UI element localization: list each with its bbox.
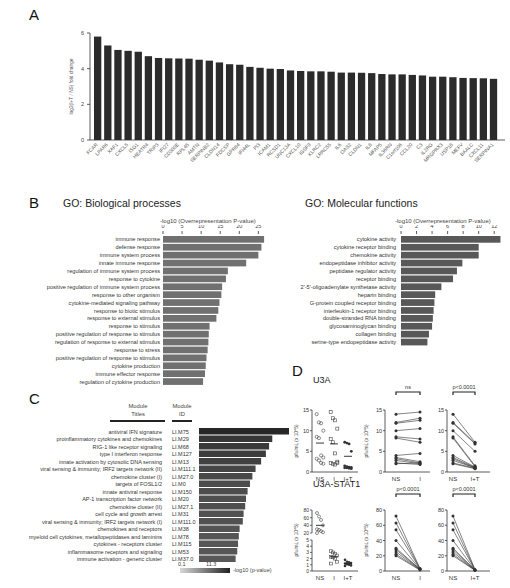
- bar: [185, 59, 192, 140]
- bar: [287, 70, 294, 140]
- svg-text:IFI44L: IFI44L: [237, 141, 251, 155]
- svg-text:10: 10: [438, 428, 444, 434]
- bar: [163, 283, 222, 290]
- svg-text:15: 15: [303, 407, 309, 413]
- svg-text:4: 4: [81, 66, 84, 72]
- svg-text:proinflammatory cytokines and: proinflammatory cytokines and chemokines: [57, 436, 163, 442]
- bar: [104, 45, 111, 140]
- svg-text:LI.M111.1: LI.M111.1: [172, 466, 196, 472]
- svg-text:I+T: I+T: [471, 575, 480, 581]
- svg-text:pfu/mL (x 10^5): pfu/mL (x 10^5): [364, 523, 369, 556]
- svg-text:response to stress: response to stress: [114, 347, 160, 353]
- svg-text:LI.M29: LI.M29: [172, 436, 189, 442]
- svg-text:response to external stimulus: response to external stimulus: [87, 315, 160, 321]
- svg-text:LI.M38: LI.M38: [172, 526, 189, 532]
- bar: [401, 307, 434, 314]
- bar: [163, 378, 203, 385]
- bar: [401, 331, 429, 338]
- svg-text:chemokines and receptors: chemokines and receptors: [97, 526, 162, 532]
- module-bar: [199, 436, 272, 443]
- svg-text:20: 20: [438, 553, 444, 559]
- svg-text:innate activation by cytosolic: innate activation by cytosolic DNA sensi…: [59, 459, 162, 465]
- svg-text:LI.M68: LI.M68: [172, 444, 189, 450]
- bar: [163, 370, 205, 377]
- panel-b-letter: B: [29, 194, 39, 211]
- svg-text:glycosaminoglycan binding: glycosaminoglycan binding: [329, 323, 396, 329]
- go-bio-axis-label: -log10 (Overrepresentation P-value): [160, 218, 256, 224]
- svg-text:5: 5: [306, 448, 309, 454]
- bar: [163, 299, 219, 306]
- bar: [163, 323, 210, 330]
- svg-text:interleukin-1 receptor binding: interleukin-1 receptor binding: [324, 308, 396, 314]
- svg-text:pfu/mL (x 10^5): pfu/mL (x 10^5): [294, 523, 299, 556]
- svg-text:serine-type endopeptidase acti: serine-type endopeptidase activity: [311, 339, 396, 345]
- svg-text:antiviral IFN signature: antiviral IFN signature: [109, 429, 163, 435]
- svg-text:60: 60: [438, 522, 444, 528]
- svg-text:cytokine production: cytokine production: [112, 363, 160, 369]
- svg-text:response to other organism: response to other organism: [92, 292, 160, 298]
- module-bar: [199, 496, 246, 503]
- svg-text:0: 0: [399, 225, 402, 229]
- svg-text:p<0.0001: p<0.0001: [396, 486, 419, 492]
- bar: [163, 347, 208, 354]
- bar: [401, 339, 427, 346]
- svg-text:viral sensing & immunity; IRF2: viral sensing & immunity; IRF2 targets n…: [40, 466, 162, 472]
- panel-c-letter: C: [29, 390, 40, 407]
- bar: [124, 51, 131, 140]
- bar: [94, 37, 101, 140]
- bar: [163, 307, 218, 314]
- svg-text:viral sensing & immunity; IRF2: viral sensing & immunity; IRF2 targets n…: [42, 519, 162, 525]
- legend-max: 11.3: [206, 561, 216, 567]
- bar: [175, 59, 182, 140]
- svg-text:receptor binding: receptor binding: [356, 276, 396, 282]
- svg-text:2: 2: [81, 101, 84, 107]
- svg-text:defense response: defense response: [116, 244, 160, 250]
- bar: [163, 236, 264, 243]
- bar: [459, 78, 466, 140]
- bar: [163, 339, 208, 346]
- svg-text:chemokine cluster (I): chemokine cluster (I): [111, 474, 162, 480]
- svg-text:LI.M127: LI.M127: [172, 451, 192, 457]
- module-titles-header-line1: Module: [108, 402, 168, 410]
- svg-text:8: 8: [462, 225, 465, 229]
- svg-text:0: 0: [441, 568, 444, 574]
- bar: [163, 331, 209, 338]
- bar: [114, 50, 121, 140]
- svg-text:G-protein coupled receptor bin: G-protein coupled receptor binding: [310, 300, 396, 306]
- svg-text:15: 15: [217, 225, 223, 229]
- svg-text:immune effector response: immune effector response: [95, 371, 160, 377]
- bar: [163, 244, 261, 251]
- svg-text:6: 6: [446, 225, 449, 229]
- svg-text:1: 1: [306, 562, 309, 568]
- bar: [163, 260, 246, 267]
- svg-text:AP-1 transcription factor netw: AP-1 transcription factor network: [82, 496, 162, 502]
- module-id-header-line1: Module: [170, 402, 194, 410]
- svg-text:4: 4: [431, 225, 434, 229]
- bar: [163, 291, 221, 298]
- module-bar: [199, 556, 236, 563]
- bar: [449, 77, 456, 140]
- bar: [246, 67, 253, 140]
- bar: [317, 71, 324, 140]
- svg-text:NS: NS: [392, 476, 400, 482]
- svg-text:innate immune response: innate immune response: [99, 260, 160, 266]
- svg-text:regulation of response to exte: regulation of response to external stimu…: [55, 339, 160, 345]
- svg-text:2: 2: [306, 556, 309, 562]
- svg-text:LI.M150: LI.M150: [172, 489, 192, 495]
- svg-text:inflammasome receptors and sig: inflammasome receptors and signaling: [68, 549, 162, 555]
- svg-text:5: 5: [441, 448, 444, 454]
- bar: [236, 65, 243, 140]
- svg-text:40: 40: [438, 538, 444, 544]
- svg-text:4: 4: [306, 543, 309, 549]
- svg-text:I: I: [333, 476, 335, 482]
- bar: [297, 71, 304, 140]
- svg-text:I: I: [333, 575, 335, 581]
- panel-a-bar-chart: 0246log2(I+T / NS) fold changeFCARLPAR6X…: [60, 22, 510, 162]
- module-bar: [199, 533, 239, 540]
- bar: [348, 73, 355, 140]
- module-titles-header-line2: Titles: [108, 410, 168, 418]
- go-mol-title: GO: Molecular functions: [305, 197, 418, 209]
- svg-text:I+T: I+T: [344, 575, 353, 581]
- bar: [429, 77, 436, 140]
- svg-text:collagen binding: collagen binding: [356, 331, 396, 337]
